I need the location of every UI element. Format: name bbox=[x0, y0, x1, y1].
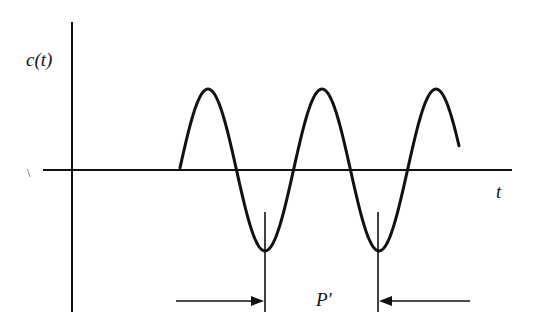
y-axis-label: c(t) bbox=[26, 49, 52, 71]
stray-mark: \ bbox=[27, 166, 31, 180]
arrow-right-pointing-icon bbox=[251, 296, 264, 306]
arrow-left-pointing-icon bbox=[379, 296, 392, 306]
x-axis-label: t bbox=[496, 181, 502, 202]
waveform-diagram: c(t) t P′ \ bbox=[0, 0, 536, 325]
period-label: P′ bbox=[315, 289, 333, 310]
